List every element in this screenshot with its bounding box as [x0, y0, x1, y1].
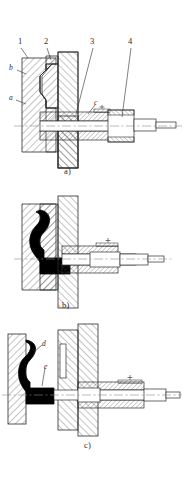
panel-b-geometry [14, 196, 172, 308]
caption-panel-a: a) [64, 166, 71, 176]
leader-1: 1 [18, 36, 22, 46]
drawing-sheet: 1 2 3 4 b a c d e a) b) c) [0, 0, 185, 484]
annotation-d: d [42, 339, 46, 348]
part-right-plate-c [78, 324, 98, 436]
leader-3: 3 [90, 36, 94, 46]
leader-2: 2 [44, 36, 48, 46]
part-shaft-a [134, 119, 176, 131]
caption-panel-b: b) [62, 300, 69, 310]
part-middle-plate-c [58, 330, 78, 430]
part-shaft-b [120, 254, 164, 265]
technical-drawing-canvas [0, 0, 185, 484]
part-right-plate-a [58, 52, 78, 168]
caption-panel-c: c) [84, 440, 91, 450]
annotation-a: a [9, 93, 13, 102]
panel-c-geometry [2, 324, 182, 436]
annotation-e: e [44, 362, 47, 371]
panel-a-geometry [14, 48, 182, 168]
annotation-b: b [9, 63, 13, 72]
leader-4: 4 [128, 36, 132, 46]
annotation-c: c [94, 98, 97, 107]
